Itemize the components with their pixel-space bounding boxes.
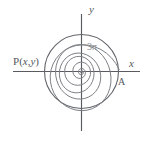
point-a-label: A bbox=[118, 77, 125, 87]
point-p-close-paren: ) bbox=[35, 55, 39, 67]
y-axis-label: y bbox=[89, 4, 94, 15]
archimedean-spiral bbox=[50, 45, 119, 111]
x-axis-label: x bbox=[129, 58, 134, 69]
radius-label: 3π bbox=[87, 42, 97, 52]
point-p-label: P(x,y) bbox=[13, 56, 39, 67]
polar-spiral-figure: y x P(x,y) A 3π bbox=[0, 0, 149, 142]
figure-canvas bbox=[0, 0, 149, 142]
